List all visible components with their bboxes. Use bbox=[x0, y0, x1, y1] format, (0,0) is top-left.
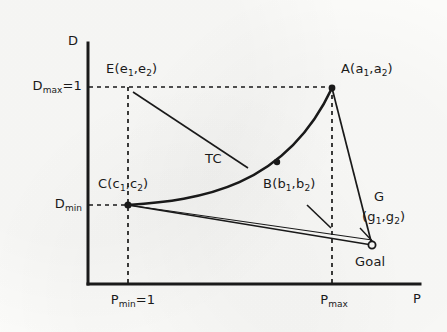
point-label-c: C(c1,c2) bbox=[98, 177, 148, 193]
curve-label-tc: TC bbox=[205, 152, 222, 165]
y-tick-dmax: Dmax=1 bbox=[6, 79, 82, 95]
point-label-g-var1: g bbox=[367, 209, 375, 224]
point-label-c-var1: c bbox=[113, 176, 120, 191]
point-label-a-var1: a bbox=[355, 61, 363, 76]
line-c-to-goal-secondary bbox=[128, 205, 372, 240]
point-label-a: A(a1,a2) bbox=[341, 62, 393, 78]
point-label-a-var2: a bbox=[374, 61, 382, 76]
x-tick-pmin-main: P bbox=[111, 292, 119, 307]
y-tick-dmin-sub: min bbox=[65, 203, 82, 213]
point-marker-goal[interactable] bbox=[368, 241, 375, 248]
point-marker-b[interactable] bbox=[274, 159, 280, 165]
point-marker-c[interactable] bbox=[124, 201, 131, 208]
goal-caption: Goal bbox=[355, 255, 385, 268]
point-label-e-var2: e bbox=[138, 61, 146, 76]
point-label-g-name: G bbox=[374, 190, 384, 203]
point-label-a-close: ) bbox=[388, 61, 393, 76]
x-tick-pmax: Pmax bbox=[320, 293, 348, 309]
x-tick-pmax-sub: max bbox=[328, 299, 348, 309]
point-label-c-close: ) bbox=[143, 176, 148, 191]
line-c-to-goal bbox=[128, 205, 372, 245]
y-tick-dmax-sub: max bbox=[43, 85, 63, 95]
point-label-b-var1: b bbox=[277, 176, 285, 191]
x-tick-pmin-tail: =1 bbox=[136, 292, 156, 307]
point-marker-a[interactable] bbox=[329, 85, 336, 92]
x-tick-pmin-sub: min bbox=[119, 299, 136, 309]
point-label-g-coords: (g1,g2) bbox=[362, 210, 405, 226]
leader-e-to-curve bbox=[133, 92, 248, 168]
point-label-g-var2: g bbox=[386, 209, 394, 224]
point-label-g-close: ) bbox=[400, 209, 405, 224]
point-label-c-name: C bbox=[98, 176, 107, 191]
point-label-e-var1: e bbox=[120, 61, 128, 76]
diagram-svg bbox=[0, 0, 447, 332]
y-tick-dmin-main: D bbox=[55, 196, 65, 211]
x-tick-pmin: Pmin=1 bbox=[111, 293, 156, 309]
point-label-e-close: ) bbox=[152, 61, 157, 76]
point-label-b: B(b1,b2) bbox=[263, 177, 315, 193]
point-label-b-name: B bbox=[263, 176, 272, 191]
y-tick-dmin: Dmin bbox=[6, 197, 82, 213]
y-tick-dmax-main: D bbox=[33, 78, 43, 93]
x-axis-label: P bbox=[413, 292, 421, 305]
point-label-a-name: A bbox=[341, 61, 350, 76]
point-label-e: E(e1,e2) bbox=[106, 62, 157, 78]
y-tick-dmax-tail: =1 bbox=[62, 78, 82, 93]
figure-canvas: D P Dmax=1 Dmin Pmin=1 Pmax E(e1,e2) A(a… bbox=[0, 0, 447, 332]
y-axis-label: D bbox=[68, 34, 78, 47]
leader-b-to-point bbox=[307, 205, 331, 228]
point-label-b-close: ) bbox=[310, 176, 315, 191]
x-tick-pmax-main: P bbox=[320, 292, 328, 307]
